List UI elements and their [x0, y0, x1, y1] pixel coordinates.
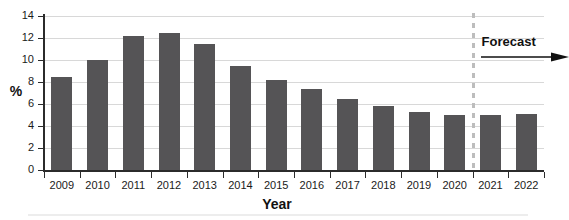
x-axis-tick-label: 2010 [78, 179, 118, 191]
y-axis-tick [38, 60, 45, 61]
gridline [44, 82, 544, 83]
x-axis-tick [294, 172, 295, 178]
x-axis-tick [44, 172, 45, 178]
bar[interactable] [159, 33, 180, 171]
x-axis-tick-label: 2009 [42, 179, 82, 191]
gridline [44, 60, 544, 61]
bar[interactable] [373, 106, 394, 170]
x-axis-tick-label: 2015 [256, 179, 296, 191]
arrow-right-icon [481, 52, 569, 62]
x-axis-tick [508, 172, 509, 178]
gridline [44, 148, 544, 149]
x-axis-tick [223, 172, 224, 178]
forecast-divider-line [472, 13, 475, 171]
x-axis-tick [115, 172, 116, 178]
x-axis-tick-label: 2011 [113, 179, 153, 191]
x-axis-tick [151, 172, 152, 178]
x-axis-tick [437, 172, 438, 178]
bar[interactable] [266, 80, 287, 170]
forecast-label: Forecast [482, 34, 536, 49]
x-axis-tick-label: 2021 [470, 179, 510, 191]
gridline [44, 16, 544, 17]
bar[interactable] [87, 60, 108, 170]
y-axis-tick [38, 104, 45, 105]
y-axis-tick-label: 8 [8, 76, 34, 87]
bar[interactable] [230, 66, 251, 171]
y-axis-tick-label: 6 [8, 98, 34, 109]
y-axis-tick [38, 82, 45, 83]
x-axis-tick-label: 2019 [399, 179, 439, 191]
bar[interactable] [51, 77, 72, 171]
y-axis-tick-label: 14 [8, 10, 34, 21]
x-axis-tick-label: 2014 [220, 179, 260, 191]
x-axis-tick [80, 172, 81, 178]
gridline [44, 38, 544, 39]
bar[interactable] [409, 112, 430, 170]
x-axis-tick [330, 172, 331, 178]
bar[interactable] [123, 36, 144, 170]
x-axis-tick-label: 2013 [185, 179, 225, 191]
plot-area [44, 16, 544, 170]
x-axis-tick [544, 172, 545, 178]
bar[interactable] [516, 114, 537, 170]
y-axis-tick [38, 16, 45, 17]
x-axis-tick-label: 2020 [435, 179, 475, 191]
x-axis-tick-label: 2017 [328, 179, 368, 191]
y-axis-tick-label: 0 [8, 164, 34, 175]
y-axis-tick-label: 2 [8, 142, 34, 153]
x-axis-tick [473, 172, 474, 178]
x-axis-tick [401, 172, 402, 178]
bar[interactable] [337, 99, 358, 171]
x-axis-tick-label: 2022 [506, 179, 546, 191]
x-axis-tick-label: 2016 [292, 179, 332, 191]
y-axis-tick-label: 10 [8, 54, 34, 65]
y-axis-tick [38, 126, 45, 127]
footer-divider [28, 214, 528, 216]
bar[interactable] [194, 44, 215, 171]
y-axis-tick [38, 148, 45, 149]
y-axis-tick-label: 4 [8, 120, 34, 131]
bar[interactable] [480, 115, 501, 170]
x-axis-tick-label: 2012 [149, 179, 189, 191]
gridline [44, 104, 544, 105]
x-axis-tick [187, 172, 188, 178]
x-axis-tick [365, 172, 366, 178]
x-axis-tick-label: 2018 [363, 179, 403, 191]
x-axis-tick [258, 172, 259, 178]
gridline [44, 126, 544, 127]
bar[interactable] [444, 115, 465, 170]
x-axis-title: Year [0, 196, 554, 212]
bar[interactable] [301, 89, 322, 170]
y-axis-tick-label: 12 [8, 32, 34, 43]
y-axis-tick [38, 38, 45, 39]
